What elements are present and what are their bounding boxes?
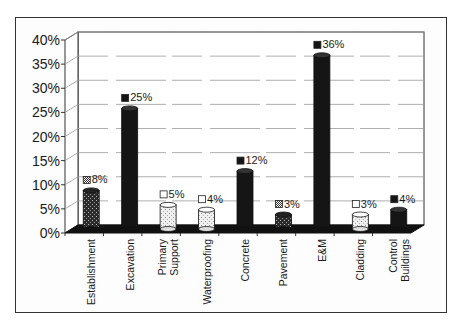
- value-marker-icon: [352, 201, 359, 208]
- value-marker-icon: [237, 157, 244, 164]
- value-marker-icon: [199, 196, 206, 203]
- y-tick-label: 30%: [32, 80, 60, 96]
- value-marker-icon: [160, 191, 167, 198]
- y-tick-label: 25%: [32, 104, 60, 120]
- y-tick-label: 10%: [32, 177, 60, 193]
- y-tick-label: 20%: [32, 129, 60, 145]
- y-tick-label: 35%: [32, 56, 60, 72]
- x-tick-label: E&M: [316, 239, 328, 262]
- value-label: 4%: [207, 193, 223, 205]
- y-tick-label: 15%: [32, 153, 60, 169]
- y-tick-label: 0%: [40, 225, 60, 241]
- x-tick-label: Cladding: [354, 239, 366, 281]
- value-label: 12%: [246, 154, 268, 166]
- value-marker-icon: [391, 196, 398, 203]
- x-tick-label: Control: [387, 239, 399, 273]
- bar-chart: 0%5%10%15%20%25%30%35%40% 8%25%5%4%12%3%…: [0, 0, 461, 326]
- value-label: 3%: [361, 198, 377, 210]
- y-axis: 0%5%10%15%20%25%30%35%40%: [32, 32, 65, 241]
- x-tick-label: Waterproofing: [201, 239, 213, 305]
- value-marker-icon: [314, 41, 321, 48]
- x-tick-label: Excavation: [124, 239, 136, 291]
- x-tick-label: Concrete: [239, 239, 251, 282]
- value-label: 5%: [169, 188, 185, 200]
- value-label: 3%: [284, 198, 300, 210]
- value-label: 4%: [399, 193, 415, 205]
- x-axis: EstablishmentExcavationPrimarySupportWat…: [65, 233, 411, 305]
- y-tick-label: 5%: [40, 201, 60, 217]
- value-label: 36%: [322, 38, 344, 50]
- x-tick-label: Support: [168, 239, 180, 276]
- y-tick-label: 40%: [32, 32, 60, 48]
- value-label: 8%: [92, 173, 108, 185]
- x-tick-label: Primary: [156, 238, 168, 275]
- x-tick-label: Pavement: [277, 239, 289, 286]
- value-label: 25%: [130, 91, 152, 103]
- x-tick-label: Buildings: [399, 239, 411, 282]
- x-tick-label: Establishment: [85, 239, 97, 305]
- value-marker-icon: [83, 176, 90, 183]
- value-marker-icon: [122, 94, 129, 101]
- value-marker-icon: [275, 201, 282, 208]
